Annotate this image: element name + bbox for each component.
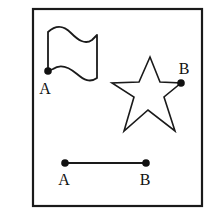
figure-container: A B A B — [0, 0, 215, 224]
point-a-flag-label: A — [39, 80, 51, 97]
point-b-star-dot — [177, 79, 185, 87]
point-a-segment-dot — [61, 159, 69, 167]
point-a-flag-dot — [44, 67, 52, 75]
geometry-figure: A B A B — [0, 0, 215, 224]
point-a-segment-label: A — [58, 171, 70, 188]
point-b-segment-dot — [142, 159, 150, 167]
point-b-segment-label: B — [140, 171, 151, 188]
point-b-star-label: B — [179, 60, 190, 77]
